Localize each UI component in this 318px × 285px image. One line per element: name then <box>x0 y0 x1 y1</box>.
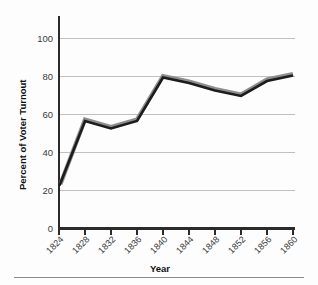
y-tick-labels: 100 80 60 40 20 0 <box>37 33 53 234</box>
x-tick-label-1856: 1856 <box>252 234 273 255</box>
x-tick-label-1836: 1836 <box>122 234 143 255</box>
y-tick-label-40: 40 <box>42 147 53 158</box>
x-tick-marks <box>59 229 293 235</box>
x-tick-label-1824: 1824 <box>44 234 65 255</box>
x-tick-label-1844: 1844 <box>174 234 195 255</box>
x-tick-label-1832: 1832 <box>96 234 117 255</box>
data-line-shadow <box>61 74 294 184</box>
y-tick-label-60: 60 <box>42 109 53 120</box>
y-tick-label-100: 100 <box>37 33 53 44</box>
x-tick-label-1828: 1828 <box>70 234 91 255</box>
x-tick-label-1840: 1840 <box>148 234 169 255</box>
chart-plot-area: 100 80 60 40 20 0 1824 1828 1832 1836 18… <box>0 0 318 285</box>
x-tick-label-1848: 1848 <box>200 234 221 255</box>
x-axis-title: Year <box>150 263 170 274</box>
y-tick-label-20: 20 <box>42 185 53 196</box>
x-tick-labels: 1824 1828 1832 1836 1840 1844 1848 1852 … <box>44 234 299 255</box>
y-axis-title: Percent of Voter Turnout <box>17 79 28 190</box>
data-line <box>60 76 294 186</box>
x-tick-label-1852: 1852 <box>226 234 247 255</box>
voter-turnout-line-chart: 100 80 60 40 20 0 1824 1828 1832 1836 18… <box>0 0 318 285</box>
data-series-voter-turnout <box>60 74 294 186</box>
y-tick-label-0: 0 <box>48 223 53 234</box>
gridlines <box>59 39 295 191</box>
bottom-divider <box>14 277 304 278</box>
y-tick-label-80: 80 <box>42 71 53 82</box>
x-tick-label-1860: 1860 <box>278 234 299 255</box>
